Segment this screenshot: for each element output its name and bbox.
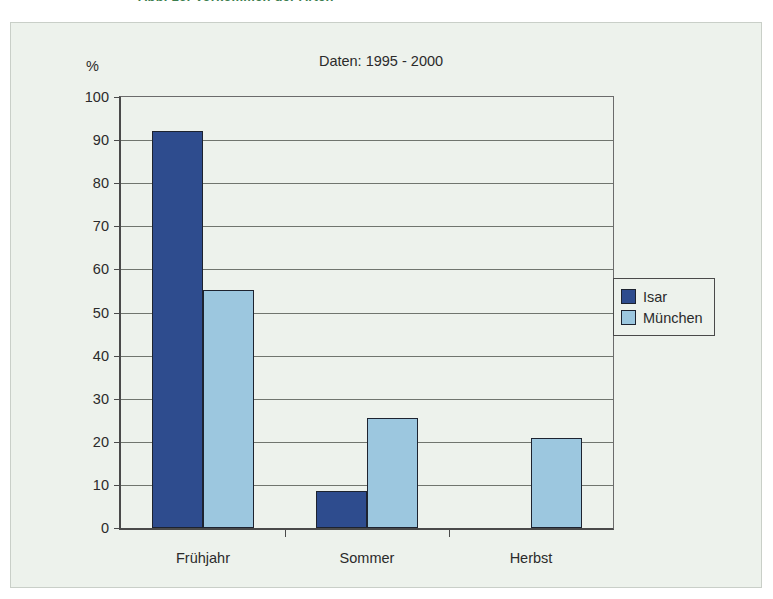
y-axis-tick-label: 10 [93, 477, 109, 493]
legend-label-isar: Isar [643, 289, 667, 305]
figure-panel: Daten: 1995 - 2000 % 0102030405060708090… [10, 22, 762, 588]
y-axis-tick-label: 30 [93, 391, 109, 407]
y-axis-tick [114, 485, 121, 486]
legend-label-muenchen: München [643, 310, 703, 326]
legend-item-isar: Isar [621, 286, 703, 307]
y-axis-tick [114, 269, 121, 270]
bar [203, 290, 254, 528]
bar [152, 131, 203, 528]
x-axis-category-label: Herbst [510, 550, 553, 566]
y-axis-tick-label: 100 [85, 89, 109, 105]
legend-swatch-muenchen [621, 310, 636, 325]
bar-chart: Daten: 1995 - 2000 % 0102030405060708090… [11, 23, 763, 589]
y-axis-tick-label: 80 [93, 175, 109, 191]
y-axis-tick-label: 50 [93, 305, 109, 321]
x-axis-category-label: Sommer [340, 550, 395, 566]
y-axis-tick-label: 70 [93, 218, 109, 234]
bar [367, 418, 418, 528]
x-axis-category-label: Frühjahr [176, 550, 230, 566]
legend-item-muenchen: München [621, 307, 703, 328]
y-axis-tick [114, 399, 121, 400]
y-axis-tick-label: 90 [93, 132, 109, 148]
y-axis-tick-label: 40 [93, 348, 109, 364]
y-axis-tick [114, 313, 121, 314]
x-axis-tick [449, 528, 450, 537]
x-axis-tick [285, 528, 286, 537]
chart-title: Daten: 1995 - 2000 [251, 53, 511, 69]
bar [316, 491, 367, 528]
chart-legend: Isar München [613, 278, 715, 336]
y-axis-tick [114, 183, 121, 184]
y-axis-tick-label: 60 [93, 261, 109, 277]
y-axis-tick-label: 0 [101, 520, 109, 536]
y-axis-tick [114, 356, 121, 357]
y-axis-tick [114, 442, 121, 443]
plot-area: 0102030405060708090100FrühjahrSommerHerb… [119, 96, 614, 530]
bar [531, 438, 582, 529]
y-axis-tick [114, 97, 121, 98]
legend-swatch-isar [621, 289, 636, 304]
figure-caption-text: Abb. 16: Vorkommen der Arten [138, 0, 334, 4]
y-axis-tick-label: 20 [93, 434, 109, 450]
y-axis-unit-label: % [86, 58, 99, 74]
figure-caption-clipped: Abb. 16: Vorkommen der Arten [0, 0, 773, 9]
y-axis-tick [114, 528, 121, 529]
y-axis-tick [114, 226, 121, 227]
y-axis-tick [114, 140, 121, 141]
